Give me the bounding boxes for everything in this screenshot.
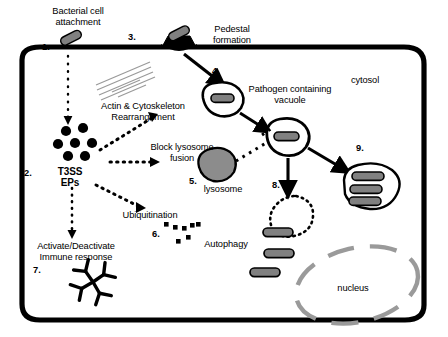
label-immune-response: Activate/Deactivate Immune response	[23, 241, 129, 264]
label-ubiquitination: Ubiquitination	[110, 210, 190, 221]
vacuole-central	[267, 118, 310, 155]
label-autophagy: Autophagy	[196, 239, 256, 250]
diagram-canvas: Bacterial cell attachment 1. 3. Pedestal…	[0, 0, 448, 337]
bacterium-attached	[59, 29, 83, 47]
step-number-1: 1.	[42, 42, 50, 52]
label-t3ss-eps: T3SS EPs	[44, 166, 96, 189]
label-nucleus: nucleus	[326, 283, 380, 294]
immune-response-antibodies	[70, 260, 115, 305]
step-number-3: 3.	[128, 32, 136, 42]
actin-filaments	[96, 62, 155, 100]
replicative-vacuole-9	[344, 163, 400, 209]
escape-loop-8	[250, 196, 313, 277]
step-number-2: 2.	[24, 168, 32, 178]
arrow-t3ss-to-ubiquitination	[96, 185, 146, 213]
arrow-vacuole4-to-central	[240, 113, 262, 127]
step-number-8: 8.	[272, 180, 280, 190]
label-cytosol: cytosol	[339, 75, 391, 86]
step-number-5: 5.	[189, 176, 197, 186]
arrow-central-to-replication	[308, 148, 340, 167]
label-block-lysosome-fusion: Block lysosome fusion	[140, 142, 224, 165]
t3ss-effector-dots	[53, 123, 97, 161]
arrow-t3ss-to-immune	[68, 188, 77, 239]
step-number-6: 6.	[152, 229, 160, 239]
label-actin-rearrangement: Actin & Cytoskeleton Rearrangement	[88, 101, 198, 124]
label-bacterial-attachment: Bacterial cell attachment	[26, 6, 130, 29]
free-bacterium-1	[263, 228, 293, 237]
step-number-7: 7.	[33, 265, 41, 275]
step-number-9: 9.	[356, 143, 364, 153]
label-lysosome: lysosome	[197, 184, 249, 195]
step-number-4: 4.	[212, 66, 220, 76]
free-bacterium-3	[250, 268, 280, 277]
label-pedestal-formation: Pedestal formation	[195, 24, 269, 47]
pedestal-structure	[161, 24, 197, 51]
label-pathogen-vacuole: Pathogen containing vacuole	[238, 84, 342, 107]
free-bacterium-2	[264, 249, 294, 258]
injection-arrow-1	[64, 56, 73, 125]
